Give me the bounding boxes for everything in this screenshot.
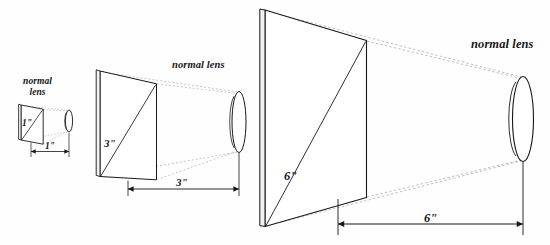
diagonal-label-six-inch: 6" <box>284 169 297 183</box>
setup-three-inch <box>96 70 246 196</box>
diagonal-label-three-inch: 3" <box>104 137 116 149</box>
lens-six-inch <box>509 77 534 162</box>
lens-label-one-inch-line1: normal <box>23 76 52 87</box>
lens-label-one-inch: normal lens <box>23 76 52 97</box>
focal-length-label-one-inch: 1" <box>45 141 55 152</box>
lens-label-one-inch-line2: lens <box>23 87 52 98</box>
lens-three-inch <box>230 92 246 153</box>
diagram-canvas: normal lens 1" 1" normal lens 3" 3" norm… <box>0 0 550 245</box>
lens-label-three-inch: normal lens <box>172 59 225 71</box>
focal-length-label-six-inch: 6" <box>424 211 437 225</box>
focal-length-label-three-inch: 3" <box>176 176 188 188</box>
lens-one-inch <box>65 110 73 132</box>
film-plane-six-inch <box>260 9 367 227</box>
lens-label-six-inch: normal lens <box>471 37 534 51</box>
diagram-vector-layer <box>0 0 550 245</box>
diagonal-label-one-inch: 1" <box>22 118 32 129</box>
film-plane-three-inch <box>96 70 156 180</box>
